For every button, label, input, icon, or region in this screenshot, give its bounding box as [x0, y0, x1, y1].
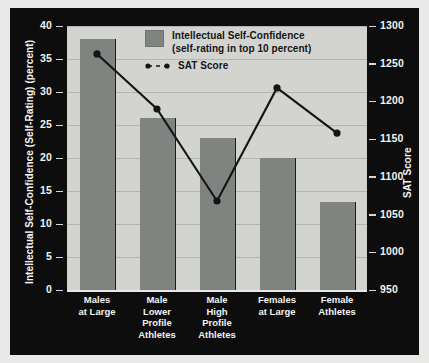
left-tick-label-5: 5 — [18, 250, 52, 262]
left-tick-label-40: 40 — [18, 19, 52, 31]
right-tick-mark-1250 — [369, 63, 376, 65]
right-tick-mark-1100 — [369, 176, 376, 178]
category-label-1: MaleLowerProfileAthletes — [127, 294, 187, 340]
right-tick-mark-1150 — [369, 139, 376, 141]
legend-item-bar: Intellectual Self-Confidence (self-ratin… — [145, 30, 311, 55]
right-tick-mark-1200 — [369, 101, 376, 103]
category-label-line: Profile — [187, 317, 247, 329]
right-tick-mark-1000 — [369, 252, 376, 254]
left-tick-label-25: 25 — [18, 118, 52, 130]
category-label-line: Female — [307, 294, 367, 306]
chart-panel: Intellectual Self-Confidence (Self-Ratin… — [10, 8, 419, 355]
category-label-line: Profile — [127, 317, 187, 329]
left-tick-mark-10 — [56, 224, 63, 226]
left-tick-mark-35 — [56, 59, 63, 61]
left-tick-label-15: 15 — [18, 184, 52, 196]
category-label-4: FemaleAthletes — [307, 294, 367, 340]
left-tick-label-10: 10 — [18, 217, 52, 229]
left-tick-mark-30 — [56, 92, 63, 94]
category-label-2: MaleHighProfileAthletes — [187, 294, 247, 340]
left-tick-label-0: 0 — [18, 283, 52, 295]
right-tick-mark-950 — [369, 290, 376, 292]
category-label-line: at Large — [247, 306, 307, 318]
legend-line-label: SAT Score — [178, 60, 228, 73]
category-label-line: Athletes — [127, 329, 187, 341]
category-label-line: Males — [67, 294, 127, 306]
left-tick-mark-5 — [56, 257, 63, 259]
left-tick-label-35: 35 — [18, 52, 52, 64]
right-tick-label-1250: 1250 — [380, 57, 420, 69]
sat-score-polyline — [97, 54, 337, 201]
category-label-line: Lower — [127, 306, 187, 318]
legend-bar-swatch-icon — [145, 30, 164, 47]
left-tick-mark-15 — [56, 191, 63, 193]
right-tick-label-1300: 1300 — [380, 19, 420, 31]
legend-bar-label: Intellectual Self-Confidence (self-ratin… — [172, 30, 311, 55]
left-tick-mark-0 — [56, 290, 63, 292]
legend-line-marker-icon — [145, 60, 170, 72]
sat-score-marker-0 — [93, 50, 100, 57]
left-tick-mark-20 — [56, 158, 63, 160]
sat-score-marker-1 — [153, 105, 160, 112]
right-tick-label-950: 950 — [380, 283, 420, 295]
left-tick-mark-40 — [56, 26, 63, 28]
category-label-line: Athletes — [187, 329, 247, 341]
category-label-line: Females — [247, 294, 307, 306]
category-label-line: High — [187, 306, 247, 318]
right-tick-mark-1300 — [369, 26, 376, 28]
category-label-0: Malesat Large — [67, 294, 127, 340]
right-tick-label-1200: 1200 — [380, 94, 420, 106]
sat-score-marker-4 — [333, 130, 340, 137]
category-labels: Malesat LargeMaleLowerProfileAthletesMal… — [67, 294, 367, 340]
left-tick-mark-25 — [56, 125, 63, 127]
left-tick-label-20: 20 — [18, 151, 52, 163]
x-axis-line — [67, 290, 367, 292]
category-label-line: Male — [127, 294, 187, 306]
category-label-3: Femalesat Large — [247, 294, 307, 340]
right-tick-label-1100: 1100 — [380, 170, 420, 182]
category-label-line: Male — [187, 294, 247, 306]
legend-bar-label-line2: (self-rating in top 10 percent) — [172, 43, 311, 54]
category-label-line: Athletes — [307, 306, 367, 318]
legend-bar-label-line1: Intellectual Self-Confidence — [172, 30, 305, 41]
chart-figure: Intellectual Self-Confidence (Self-Ratin… — [0, 0, 429, 363]
legend-item-line: SAT Score — [145, 60, 311, 73]
right-tick-mark-1050 — [369, 214, 376, 216]
right-tick-label-1150: 1150 — [380, 132, 420, 144]
left-tick-label-30: 30 — [18, 85, 52, 97]
sat-score-marker-3 — [273, 84, 280, 91]
chart-legend: Intellectual Self-Confidence (self-ratin… — [145, 30, 311, 73]
sat-score-marker-2 — [213, 197, 220, 204]
category-label-line: at Large — [67, 306, 127, 318]
right-tick-label-1000: 1000 — [380, 245, 420, 257]
right-tick-label-1050: 1050 — [380, 208, 420, 220]
